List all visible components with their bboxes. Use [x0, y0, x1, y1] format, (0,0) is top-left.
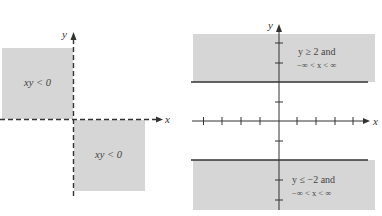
region-top-line2: −∞ < x < ∞ — [297, 60, 336, 70]
x-axis-label: x — [164, 113, 170, 125]
region-top — [193, 34, 375, 82]
y-axis-arrow-icon — [71, 32, 77, 40]
y-axis-label: y — [267, 19, 273, 31]
region-top-line1: y ≥ 2 and — [298, 46, 335, 57]
left-figure: x y xy < 0 xy < 0 — [0, 28, 170, 196]
x-axis-arrow-icon — [156, 117, 163, 123]
figure-canvas: x y xy < 0 xy < 0 — [0, 0, 382, 216]
region-label-quadrant-ii: xy < 0 — [23, 77, 52, 88]
region-bottom-line2: −∞ < x < ∞ — [292, 188, 331, 198]
x-axis-label: x — [372, 115, 378, 127]
y-axis-label: y — [61, 28, 67, 40]
right-figure: x y y ≥ 2 and −∞ < x < ∞ y ≤ −2 and −∞ <… — [191, 19, 378, 210]
region-bottom-line1: y ≤ −2 and — [292, 174, 335, 185]
region-bottom — [193, 160, 375, 210]
x-axis-arrow-icon — [363, 118, 370, 124]
y-axis-arrow-icon — [276, 24, 282, 32]
region-label-quadrant-iv: xy < 0 — [94, 149, 123, 160]
